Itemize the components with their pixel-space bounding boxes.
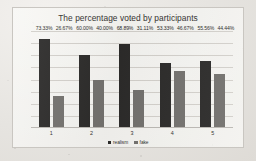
bar-wrapper: 31.11% [133, 31, 144, 128]
bar-wrapper: 55.56% [200, 31, 211, 128]
bar-group: 55.56%44.44% [196, 31, 230, 128]
bar-value-label: 26.67% [56, 25, 73, 31]
bar-group: 53.33%46.67% [155, 31, 189, 128]
legend-label: fake [140, 140, 149, 145]
legend-swatch-icon [134, 141, 138, 145]
bar-wrapper: 53.33% [160, 31, 171, 128]
bar[interactable] [119, 44, 130, 128]
bar-wrapper: 60.00% [79, 31, 90, 128]
bar-value-label: 68.89% [117, 25, 134, 31]
x-tick-label: 5 [196, 130, 230, 136]
bar-value-label: 60.00% [76, 25, 93, 31]
bar-group: 68.89%31.11% [115, 31, 149, 128]
legend-item[interactable]: fake [134, 140, 148, 145]
bar-wrapper: 40.00% [93, 31, 104, 128]
bar-groups: 73.33%26.67%60.00%40.00%68.89%31.11%53.3… [31, 31, 233, 128]
chart-title: The percentage voted by participants [13, 13, 243, 23]
bar[interactable] [79, 55, 90, 128]
chart-container: The percentage voted by participants 73.… [12, 7, 244, 148]
x-axis-line [31, 127, 233, 128]
bar-wrapper: 46.67% [174, 31, 185, 128]
x-tick-label: 2 [74, 130, 108, 136]
bar-group: 73.33%26.67% [34, 31, 68, 128]
legend-item[interactable]: realism [108, 140, 129, 145]
bar[interactable] [160, 63, 171, 128]
x-tick-label: 1 [34, 130, 68, 136]
bar[interactable] [53, 96, 64, 128]
bar-group: 60.00%40.00% [74, 31, 108, 128]
bar-value-label: 46.67% [177, 25, 194, 31]
bar-value-label: 44.44% [217, 25, 234, 31]
bar[interactable] [93, 80, 104, 129]
bar[interactable] [39, 39, 50, 128]
bar-wrapper: 68.89% [119, 31, 130, 128]
bar[interactable] [214, 74, 225, 128]
bar-value-label: 31.11% [137, 25, 153, 31]
legend-swatch-icon [108, 141, 112, 145]
legend-label: realism [113, 140, 128, 145]
bar-wrapper: 73.33% [39, 31, 50, 128]
bar-value-label: 53.33% [157, 25, 174, 31]
bar[interactable] [200, 61, 211, 128]
bar[interactable] [174, 71, 185, 128]
bar-wrapper: 26.67% [53, 31, 64, 128]
plot-area: 73.33%26.67%60.00%40.00%68.89%31.11%53.3… [31, 31, 233, 128]
bar-value-label: 73.33% [36, 25, 53, 31]
x-tick-label: 4 [155, 130, 189, 136]
bar[interactable] [133, 90, 144, 128]
chart-legend: realismfake [13, 140, 243, 145]
x-tick-label: 3 [115, 130, 149, 136]
bar-value-label: 55.56% [197, 25, 214, 31]
bar-value-label: 40.00% [96, 25, 113, 31]
bar-wrapper: 44.44% [214, 31, 225, 128]
x-axis-tick-labels: 12345 [31, 130, 233, 136]
